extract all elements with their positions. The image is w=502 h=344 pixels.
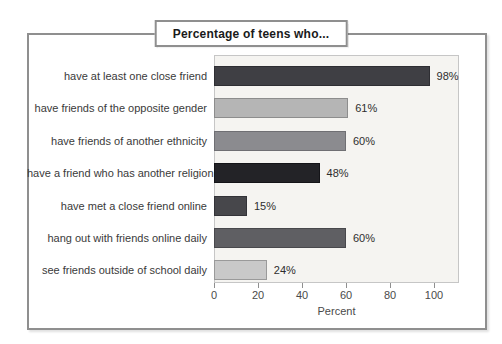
value-label: 48% [327, 166, 349, 180]
bar [214, 163, 320, 183]
x-tick-label: 80 [372, 289, 408, 302]
x-tick-label: 100 [416, 289, 452, 302]
x-tick-mark [390, 283, 391, 288]
category-label: have friends of another ethnicity [27, 134, 207, 148]
x-tick-label: 0 [196, 289, 232, 302]
x-tick-mark [214, 283, 215, 288]
x-tick-label: 60 [328, 289, 364, 302]
bar [214, 66, 430, 86]
category-label: hang out with friends online daily [27, 231, 207, 245]
category-label: have friends of the opposite gender [27, 101, 207, 115]
x-axis-label: Percent [214, 304, 459, 318]
value-label: 60% [353, 134, 375, 148]
value-label: 24% [274, 263, 296, 277]
bar [214, 196, 247, 216]
category-label: have met a close friend online [27, 199, 207, 213]
x-tick-mark [302, 283, 303, 288]
value-label: 15% [254, 199, 276, 213]
x-tick-label: 20 [240, 289, 276, 302]
x-tick-label: 40 [284, 289, 320, 302]
value-label: 60% [353, 231, 375, 245]
bar [214, 260, 267, 280]
chart-title-box: Percentage of teens who... [155, 20, 348, 47]
category-label: see friends outside of school daily [27, 263, 207, 277]
bar [214, 131, 346, 151]
value-label: 61% [355, 101, 377, 115]
bar [214, 228, 346, 248]
chart-title: Percentage of teens who... [173, 27, 330, 41]
x-tick-mark [258, 283, 259, 288]
chart-canvas: Percentage of teens who... have at least… [0, 0, 502, 344]
x-tick-mark [346, 283, 347, 288]
x-tick-mark [434, 283, 435, 288]
category-label: have at least one close friend [27, 69, 207, 83]
bar [214, 98, 348, 118]
value-label: 98% [437, 69, 459, 83]
category-label: have a friend who has another religion [27, 166, 207, 180]
